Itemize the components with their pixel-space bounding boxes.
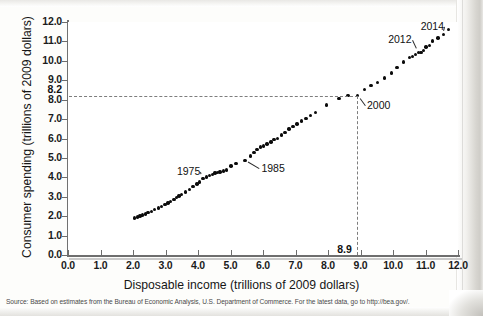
y-tick-mark (62, 216, 68, 217)
x-tick-label: 9.0 (344, 259, 378, 271)
plot-area (68, 22, 458, 255)
y-tick-mark (62, 177, 68, 178)
data-point (402, 60, 405, 63)
data-point (280, 133, 283, 136)
x-tick-mark (231, 250, 232, 256)
y-axis-title: Consumer spending (trillions of 2009 dol… (20, 12, 34, 262)
y-tick-mark (62, 100, 68, 101)
annotation-label: 1975 (177, 165, 200, 177)
x-axis-title: Disposable income (trillions of 2009 dol… (0, 278, 483, 292)
x-tick-mark (166, 250, 167, 256)
data-point (295, 122, 298, 125)
x-tick-label: 2.0 (116, 259, 150, 271)
x-tick-label: 11.0 (409, 259, 443, 271)
data-point (383, 76, 386, 79)
y-tick-mark (62, 41, 68, 42)
x-tick-mark (458, 250, 459, 256)
guide-line-horizontal (69, 96, 358, 97)
chart-figure: 0.01.02.03.04.05.06.07.08.09.010.011.012… (0, 0, 483, 316)
x-tick-label: 0.0 (51, 259, 85, 271)
x-tick-label: 1.0 (84, 259, 118, 271)
x-tick-label: 6.0 (246, 259, 280, 271)
guide-line-vertical (357, 96, 358, 255)
data-point (369, 84, 372, 87)
data-point (436, 36, 439, 39)
x-tick-label: 10.0 (376, 259, 410, 271)
data-point (304, 117, 307, 120)
data-point (249, 154, 252, 157)
special-x-tick-label: 8.9 (337, 243, 352, 255)
data-point (225, 168, 228, 171)
data-point (390, 71, 393, 74)
page-edge-bottom (0, 307, 483, 316)
y-tick-mark (62, 22, 68, 23)
data-point (198, 180, 201, 183)
x-tick-mark (296, 250, 297, 256)
x-tick-mark (361, 250, 362, 256)
data-point (287, 127, 290, 130)
y-tick-mark (62, 119, 68, 120)
data-point (376, 81, 379, 84)
annotation-label: 2000 (367, 99, 390, 111)
x-tick-label: 8.0 (311, 259, 345, 271)
x-tick-mark (198, 250, 199, 256)
y-tick-mark (62, 236, 68, 237)
x-tick-label: 7.0 (279, 259, 313, 271)
y-tick-mark (62, 80, 68, 81)
y-tick-mark (62, 61, 68, 62)
page-edge-top (0, 0, 483, 7)
x-tick-mark (68, 250, 69, 256)
data-point (395, 66, 398, 69)
y-tick-mark (62, 197, 68, 198)
x-tick-label: 5.0 (214, 259, 248, 271)
x-tick-mark (263, 250, 264, 256)
y-tick-mark (62, 158, 68, 159)
annotation-label: 2012 (388, 33, 411, 45)
x-tick-mark (133, 250, 134, 256)
x-tick-mark (393, 250, 394, 256)
data-point (291, 125, 294, 128)
x-tick-mark (426, 250, 427, 256)
data-point (300, 119, 303, 122)
y-tick-mark (62, 139, 68, 140)
data-point (447, 28, 450, 31)
source-note: Source: Based on estimates from the Bure… (6, 298, 476, 305)
data-point (325, 103, 328, 106)
x-tick-mark (328, 250, 329, 256)
x-tick-label: 12.0 (441, 259, 475, 271)
annotation-label: 2014 (421, 20, 444, 32)
data-point (229, 164, 232, 167)
data-point (265, 142, 268, 145)
data-point (243, 159, 246, 162)
x-tick-mark (101, 250, 102, 256)
annotation-label: 1985 (261, 162, 284, 174)
x-tick-label: 4.0 (181, 259, 215, 271)
data-point (252, 151, 255, 154)
x-tick-label: 3.0 (149, 259, 183, 271)
data-point (283, 131, 286, 134)
